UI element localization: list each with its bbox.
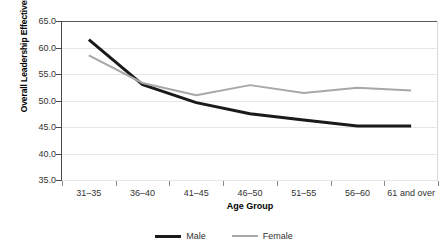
x-tick-mark: [438, 181, 439, 186]
legend-swatch-male-icon: [155, 235, 181, 238]
x-tick-label: 56–60: [345, 188, 370, 198]
y-tick-label: 50.0: [22, 96, 56, 106]
y-tick-label: 35.0: [22, 175, 56, 185]
y-tick-label: 55.0: [22, 69, 56, 79]
y-tick-mark: [56, 21, 61, 22]
legend-label-female: Female: [263, 231, 293, 241]
series-lines: [62, 21, 438, 180]
x-tick-label: 36–40: [130, 188, 155, 198]
y-tick-label: 65.0: [22, 16, 56, 26]
y-tick-mark: [56, 101, 61, 102]
y-tick-mark: [56, 74, 61, 75]
y-tick-label: 45.0: [22, 122, 56, 132]
y-tick-mark: [56, 154, 61, 155]
x-tick-label: 31–35: [76, 188, 101, 198]
y-tick-label: 60.0: [22, 43, 56, 53]
y-axis-tick-labels: 35.040.045.050.055.060.065.0: [22, 0, 56, 252]
x-tick-mark: [384, 181, 385, 186]
x-tick-mark: [62, 181, 63, 186]
y-tick-label: 40.0: [22, 149, 56, 159]
x-tick-mark: [331, 181, 332, 186]
x-tick-label: 51–55: [291, 188, 316, 198]
y-tick-mark: [56, 48, 61, 49]
y-tick-mark: [56, 127, 61, 128]
chart-legend: Male Female: [0, 228, 448, 244]
x-tick-label: 61 and over: [387, 188, 435, 198]
plot-area: [62, 21, 438, 180]
y-tick-mark: [56, 180, 61, 181]
x-tick-mark: [116, 181, 117, 186]
legend-swatch-female-icon: [232, 235, 258, 237]
x-axis-title: Age Group: [62, 201, 438, 211]
x-tick-label: 41–45: [184, 188, 209, 198]
x-tick-mark: [169, 181, 170, 186]
line-chart: Overall Leadership Effectiveness 35.040.…: [0, 0, 448, 252]
series-line-male: [89, 40, 411, 126]
grid-line: [62, 180, 438, 181]
legend-item-male: Male: [155, 231, 206, 241]
x-tick-label: 46–50: [237, 188, 262, 198]
series-line-female: [89, 55, 411, 95]
x-tick-mark: [277, 181, 278, 186]
x-axis-tick-labels: 31–3536–4041–4546–5051–5556–6061 and ove…: [62, 188, 438, 202]
x-tick-mark: [223, 181, 224, 186]
legend-item-female: Female: [232, 231, 293, 241]
legend-label-male: Male: [186, 231, 206, 241]
